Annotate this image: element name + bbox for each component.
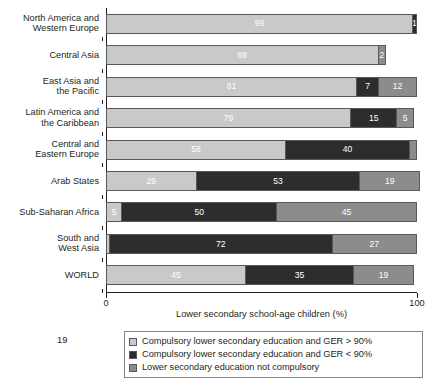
category-label: East Asia and the Pacific (0, 76, 99, 97)
bar-segment[interactable]: 1 (413, 15, 416, 33)
segment-value-label: 5 (403, 114, 408, 123)
segment-value-label: 81 (227, 82, 237, 91)
x-axis-title: Lower secondary school-age children (%) (106, 309, 417, 319)
bar-segment[interactable]: 58 (107, 141, 286, 159)
segment-value-label: 1 (413, 19, 416, 28)
stacked-bar[interactable]: 7227 (106, 234, 417, 254)
legend-swatch (129, 351, 137, 359)
y-axis-tick (102, 37, 103, 41)
stacked-bar[interactable]: 5840 (106, 140, 417, 160)
category-label: Central and Eastern Europe (0, 139, 99, 160)
legend-entries-host: Compulsory lower secondary education and… (129, 335, 418, 374)
segment-value-label: 19 (379, 271, 389, 280)
segment-value-label: 19 (385, 177, 395, 186)
bar-segment[interactable]: 88 (107, 46, 379, 64)
bar-segment[interactable]: 50 (122, 203, 277, 221)
segment-value-label: 45 (171, 271, 181, 280)
segment-value-label: 15 (369, 114, 379, 123)
bar-row: Central Asia882 (106, 45, 417, 65)
stacked-bar[interactable]: 79155 (106, 108, 414, 128)
stacked-bar[interactable]: 453519 (106, 265, 414, 285)
bar-row: Sub-Saharan Africa55045 (106, 202, 417, 222)
segment-value-label: 79 (224, 114, 234, 123)
y-axis-tick (102, 289, 103, 293)
y-axis-tick (102, 258, 103, 262)
chart-container: North America and Western Europe991Centr… (0, 0, 443, 385)
x-axis-tick-label: 0 (103, 298, 108, 308)
bar-row: South and West Asia7227 (106, 234, 417, 254)
x-axis-tick-label: 100 (409, 298, 424, 308)
bar-row: East Asia and the Pacific81712 (106, 77, 417, 97)
x-axis-line (106, 292, 417, 293)
plot-area: North America and Western Europe991Centr… (106, 8, 417, 291)
segment-value-label: 40 (343, 145, 353, 154)
bar-segment[interactable]: 40 (286, 141, 410, 159)
segment-value-label: 58 (191, 145, 201, 154)
legend-label: Compulsory lower secondary education and… (142, 350, 372, 359)
bar-row: WORLD453519 (106, 265, 417, 285)
bar-segment[interactable]: 19 (360, 172, 419, 190)
chart-legend: Compulsory lower secondary education and… (124, 331, 423, 378)
legend-swatch (129, 338, 137, 346)
segment-value-label: 50 (194, 208, 204, 217)
bar-segment[interactable]: 99 (107, 15, 413, 33)
y-axis-tick (102, 226, 103, 230)
legend-item[interactable]: Compulsory lower secondary education and… (129, 348, 418, 361)
bar-segment[interactable]: 27 (333, 235, 416, 253)
bar-row: Arab States295319 (106, 171, 417, 191)
stacked-bar[interactable]: 991 (106, 14, 417, 34)
category-label: Latin America and the Caribbean (0, 107, 99, 128)
bar-segment[interactable]: 5 (107, 203, 122, 221)
category-label: Arab States (0, 176, 99, 187)
bar-row: North America and Western Europe991 (106, 14, 417, 34)
bar-segment[interactable] (410, 141, 416, 159)
legend-item[interactable]: Compulsory lower secondary education and… (129, 335, 418, 348)
bar-segment[interactable]: 45 (107, 266, 246, 284)
bar-segment[interactable]: 45 (277, 203, 416, 221)
bar-row: Latin America and the Caribbean79155 (106, 108, 417, 128)
bar-segment[interactable]: 81 (107, 78, 357, 96)
segment-value-label: 7 (365, 82, 370, 91)
y-axis-tick (102, 100, 103, 104)
bar-segment[interactable]: 53 (197, 172, 361, 190)
segment-value-label: 53 (273, 177, 283, 186)
category-label: North America and Western Europe (0, 13, 99, 34)
stacked-bar[interactable]: 295319 (106, 171, 420, 191)
legend-swatch (129, 364, 137, 372)
segment-value-label: 99 (255, 19, 265, 28)
bar-segment[interactable]: 5 (397, 109, 412, 127)
category-label: South and West Asia (0, 233, 99, 254)
y-axis-tick (102, 69, 103, 73)
bar-segment[interactable]: 2 (379, 46, 385, 64)
bar-segment[interactable]: 35 (246, 266, 354, 284)
y-axis-tick (102, 163, 103, 167)
category-label: Sub-Saharan Africa (0, 207, 99, 218)
bar-segment[interactable]: 19 (354, 266, 413, 284)
bar-segment[interactable]: 12 (379, 78, 416, 96)
bar-segment[interactable]: 72 (110, 235, 332, 253)
legend-item[interactable]: Lower secondary education not compulsory (129, 361, 418, 374)
bar-segment[interactable]: 7 (357, 78, 379, 96)
segment-value-label: 29 (147, 177, 157, 186)
segment-value-label: 2 (379, 51, 384, 60)
segment-value-label: 5 (112, 208, 117, 217)
y-axis-tick (102, 195, 103, 199)
bar-segment[interactable]: 79 (107, 109, 351, 127)
segment-value-label: 72 (216, 240, 226, 249)
stacked-bar[interactable]: 55045 (106, 202, 417, 222)
segment-value-label: 12 (393, 82, 403, 91)
stacked-bar[interactable]: 81712 (106, 77, 417, 97)
bar-segment[interactable]: 29 (107, 172, 197, 190)
segment-value-label: 27 (369, 240, 379, 249)
legend-label: Compulsory lower secondary education and… (142, 337, 372, 346)
segment-value-label: 35 (295, 271, 305, 280)
bar-segment[interactable]: 15 (351, 109, 397, 127)
category-label: WORLD (0, 270, 99, 281)
segment-value-label: 88 (238, 51, 248, 60)
legend-label: Lower secondary education not compulsory (142, 363, 319, 372)
segment-value-label: 45 (342, 208, 352, 217)
page-number: 19 (57, 334, 67, 345)
stacked-bar[interactable]: 882 (106, 45, 386, 65)
bar-row: Central and Eastern Europe5840 (106, 140, 417, 160)
y-axis-tick (102, 132, 103, 136)
